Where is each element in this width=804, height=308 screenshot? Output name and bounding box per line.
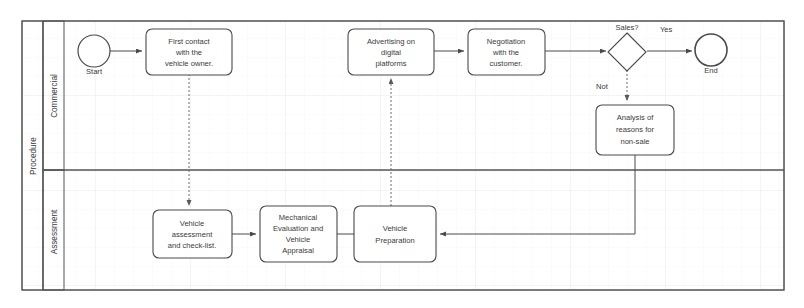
task-first-contact-line-2: with the <box>175 48 202 57</box>
task-mechanical-evaluation[interactable]: Mechanical Evaluation and Vehicle Apprai… <box>260 206 337 262</box>
task-vehicle-preparation[interactable]: Vehicle Preparation <box>354 206 436 262</box>
task-vehicle-assessment[interactable]: Vehicle assessment and check-list. <box>153 210 232 258</box>
flow-label-yes: Yes <box>660 25 673 34</box>
task-vehicle-assessment-line-1: Vehicle <box>180 219 205 228</box>
task-advertising[interactable]: Advertising on digital platforms <box>348 29 434 75</box>
task-negotiation-line-3: customer. <box>490 59 523 68</box>
task-first-contact-line-1: First contact <box>168 37 210 46</box>
task-vehicle-assessment-line-2: assessment <box>172 230 213 239</box>
task-analysis-line-1: Analysis of <box>617 113 655 122</box>
end-event-label: End <box>704 66 718 75</box>
task-first-contact-line-3: vehicle owner. <box>165 59 213 68</box>
task-analysis-line-2: reasons for <box>616 125 654 134</box>
task-analysis[interactable]: Analysis of reasons for non-sale <box>596 105 674 155</box>
flow-label-not: Not <box>596 82 609 91</box>
gateway-sales-label: Sales? <box>615 23 638 32</box>
task-vehicle-assessment-line-3: and check-list. <box>168 241 217 250</box>
task-mechanical-evaluation-line-1: Mechanical <box>279 213 318 222</box>
pool-label: Procedure <box>29 137 38 175</box>
task-mechanical-evaluation-line-3: Vehicle <box>286 235 311 244</box>
lane-label-commercial: Commercial <box>50 74 59 118</box>
task-negotiation[interactable]: Negotiation with the customer. <box>468 29 545 75</box>
bpmn-diagram-canvas: Procedure Commercial Assessment <box>0 0 804 308</box>
task-mechanical-evaluation-line-2: Evaluation and <box>273 224 323 233</box>
task-mechanical-evaluation-line-4: Appraisal <box>282 246 314 255</box>
task-advertising-line-1: Advertising on <box>367 37 415 46</box>
task-negotiation-line-1: Negotiation <box>487 37 525 46</box>
task-advertising-line-2: digital <box>381 48 401 57</box>
task-vehicle-preparation-line-2: Preparation <box>375 236 414 245</box>
task-first-contact[interactable]: First contact with the vehicle owner. <box>146 29 232 75</box>
task-vehicle-preparation-line-1: Vehicle <box>383 224 408 233</box>
start-event-label: Start <box>86 67 103 76</box>
task-advertising-line-3: platforms <box>375 59 406 68</box>
lane-label-assessment: Assessment <box>50 209 59 254</box>
task-analysis-line-3: non-sale <box>620 137 649 146</box>
task-negotiation-line-2: with the <box>492 48 519 57</box>
